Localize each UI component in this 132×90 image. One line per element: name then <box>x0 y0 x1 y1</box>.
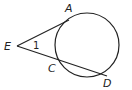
tangent-segment-EA <box>17 20 69 46</box>
point-label-A: A <box>64 2 73 15</box>
geometry-diagram: A E 1 C D <box>0 0 132 90</box>
angle-label-1: 1 <box>33 40 39 51</box>
point-label-C: C <box>48 62 56 75</box>
secant-segment-ED <box>17 46 107 76</box>
point-label-D: D <box>103 77 111 90</box>
point-label-E: E <box>4 40 11 53</box>
